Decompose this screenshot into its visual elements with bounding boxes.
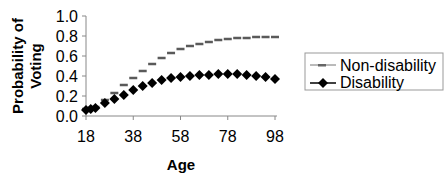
data-point [148,63,156,66]
x-tick-label: 58 [172,128,190,145]
x-tick-label: 78 [219,128,237,145]
data-point [252,36,260,39]
x-tick-label: 98 [266,128,284,145]
y-tick-label: 0.2 [56,88,78,105]
data-point [262,36,270,39]
data-point [233,37,241,40]
data-point [129,77,137,80]
data-point [128,85,138,95]
data-point [224,38,232,41]
y-axis-ticks: 0.00.20.40.60.81.0 [56,8,86,125]
data-point [232,69,242,79]
y-tick-label: 1.0 [56,8,78,25]
data-point [194,70,204,80]
data-point [109,94,119,104]
y-tick-label: 0.4 [56,68,78,85]
data-point [185,71,195,81]
y-tick-label: 0.8 [56,28,78,45]
data-point [147,78,157,88]
data-point [119,90,129,100]
data-point [195,43,203,46]
data-point [204,70,214,80]
chart-canvas: Probability of Voting 0.00.20.40.60.81.0… [0,0,444,180]
data-point [223,69,233,79]
data-point [166,73,176,83]
data-point [270,74,280,84]
data-point [214,39,222,42]
data-point [271,36,279,39]
x-axis-title: Age [167,156,195,173]
data-point [186,45,194,48]
data-point [243,37,251,40]
data-point [242,70,252,80]
data-point [167,52,175,55]
data-point [120,84,128,87]
x-tick-label: 18 [77,128,95,145]
x-axis-ticks: 1838587898 [77,116,284,145]
data-point [251,71,261,81]
data-point [139,70,147,73]
y-axis-title: Probability of Voting [9,17,44,114]
svg-text:Non-disability: Non-disability [340,57,436,74]
data-point [177,48,185,51]
data-point [158,57,166,60]
data-point [138,81,148,91]
svg-text:Voting: Voting [27,43,44,89]
data-point [205,41,213,44]
svg-text:Disability: Disability [340,74,404,91]
data-point [157,75,167,85]
y-tick-label: 0.0 [56,108,78,125]
data-point [213,69,223,79]
x-tick-label: 38 [124,128,142,145]
y-tick-label: 0.6 [56,48,78,65]
data-point [176,72,186,82]
voting-probability-chart: Probability of Voting 0.00.20.40.60.81.0… [0,0,444,180]
legend: Non-disability Disability [305,53,443,91]
svg-text:Probability of: Probability of [9,17,26,114]
data-point [110,92,118,95]
data-point [261,72,271,82]
